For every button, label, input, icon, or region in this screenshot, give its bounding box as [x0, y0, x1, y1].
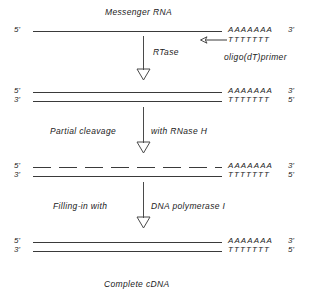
step-polymerase-arrow-icon — [136, 216, 151, 229]
step-rnaseh-label-right: with RNase H — [151, 127, 207, 136]
step-rnaseh-label-left: Partial cleavage — [50, 127, 116, 136]
panel-cdna-bottom-left-end: 3' — [14, 246, 20, 254]
primer-sequence: TTTTTTT — [228, 36, 270, 44]
panel-hybrid-top-left-end: 5' — [14, 87, 20, 95]
panel-cdna-top-sequence: AAAAAAA — [228, 237, 273, 245]
panel-cdna-bottom-strand — [33, 251, 222, 252]
panel-cdna-top-left-end: 5' — [14, 237, 20, 245]
diagram-footer: Complete cDNA — [104, 280, 170, 289]
step-rnaseh-line — [143, 107, 144, 143]
panel-cleaved-top-left-end: 5' — [14, 162, 20, 170]
panel-cleaved-bottom-left-end: 3' — [14, 171, 20, 179]
panel-hybrid-top-right-end: 3' — [288, 87, 294, 95]
panel-hybrid-top-strand — [33, 92, 222, 93]
step-rtase-line — [143, 36, 144, 70]
panel-cleaved-bottom-strand — [33, 176, 222, 177]
panel-mrna-top-sequence: AAAAAAA — [228, 26, 273, 34]
primer-caption: oligo(dT)primer — [224, 53, 287, 62]
panel-hybrid-bottom-right-end: 5' — [288, 96, 294, 104]
panel-cdna-top-strand — [33, 242, 222, 243]
panel-cleaved-top-sequence: AAAAAAA — [228, 162, 273, 170]
diagram-title: Messenger RNA — [105, 8, 172, 17]
panel-cleaved-top-strand — [33, 167, 222, 168]
panel-cleaved-bottom-right-end: 5' — [288, 171, 294, 179]
primer-arrow-icon — [200, 35, 228, 45]
panel-hybrid-bottom-left-end: 3' — [14, 96, 20, 104]
panel-mrna-top-right-end: 3' — [288, 26, 294, 34]
step-polymerase-label-right: DNA polymerase I — [151, 202, 225, 211]
panel-hybrid-top-sequence: AAAAAAA — [228, 87, 273, 95]
step-rtase-label: RTase — [153, 48, 179, 57]
panel-cleaved-top-right-end: 3' — [288, 162, 294, 170]
panel-cdna-bottom-right-end: 5' — [288, 246, 294, 254]
panel-hybrid-bottom-sequence: TTTTTTT — [228, 96, 270, 104]
step-rnaseh-arrow-icon — [136, 141, 151, 154]
panel-cdna-bottom-sequence: TTTTTTT — [228, 246, 270, 254]
panel-hybrid-bottom-strand — [33, 101, 222, 102]
cdna-synthesis-diagram: Messenger RNA 5' AAAAAAA 3' TTTTTTT olig… — [0, 0, 309, 301]
panel-mrna-top-strand — [33, 31, 222, 32]
panel-mrna-top-left-end: 5' — [14, 26, 20, 34]
step-polymerase-label-left: Filling-in with — [53, 202, 107, 211]
panel-cleaved-bottom-sequence: TTTTTTT — [228, 171, 270, 179]
step-rtase-arrow-icon — [136, 68, 151, 81]
panel-cdna-top-right-end: 3' — [288, 237, 294, 245]
step-polymerase-line — [143, 182, 144, 218]
